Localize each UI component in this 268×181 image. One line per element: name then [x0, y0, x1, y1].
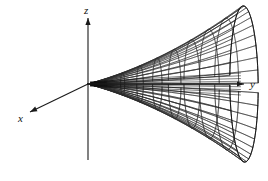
axis-label-y: y	[249, 78, 255, 90]
axis-arrowhead-x	[30, 107, 37, 112]
cone-surface-figure: x y z	[0, 0, 268, 181]
axis-label-x: x	[17, 112, 23, 124]
axis-arrowhead-z	[85, 18, 90, 25]
cone-upper-nappe-mesh	[88, 73, 258, 162]
axis-arrowhead-y	[237, 81, 244, 86]
cone-upper-nappe-back-mesh	[88, 6, 258, 84]
figure-container: x y z	[0, 0, 268, 181]
axis-label-z: z	[83, 4, 89, 16]
axis-line-x	[30, 84, 88, 112]
